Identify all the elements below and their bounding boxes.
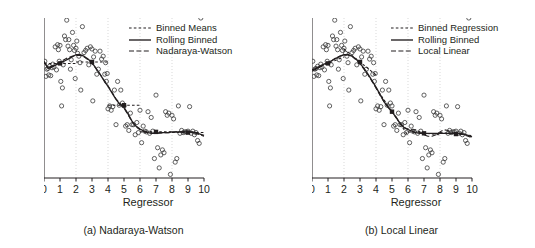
svg-text:6: 6 — [405, 183, 411, 195]
legend-label: Rolling Binned — [156, 34, 217, 46]
legend-item: Rolling Binned — [128, 34, 232, 46]
caption-b: (b) Local Linear — [268, 224, 535, 236]
svg-text:6: 6 — [137, 183, 143, 195]
svg-text:5: 5 — [389, 183, 395, 195]
legend-item: Rolling Binned — [390, 34, 498, 46]
svg-text:4: 4 — [105, 183, 111, 195]
svg-text:8: 8 — [437, 183, 443, 195]
legend-swatch-solid-icon — [390, 34, 414, 46]
svg-text:5: 5 — [121, 183, 127, 195]
legend-label: Nadaraya-Watson — [156, 45, 232, 57]
svg-text:0: 0 — [44, 183, 47, 195]
legend-item: Binned Regression — [390, 22, 498, 34]
svg-text:7: 7 — [153, 183, 159, 195]
svg-text:2: 2 — [73, 183, 79, 195]
legend-swatch-dashed-short-icon — [128, 22, 152, 34]
x-axis-label-a: Regressor — [44, 196, 252, 208]
svg-text:8: 8 — [169, 183, 175, 195]
legend-item: Local Linear — [390, 45, 498, 57]
y-axis-label-a: Dependent variable — [2, 0, 16, 28]
caption-a: (a) Nadaraya-Watson — [0, 224, 267, 236]
legend-label: Binned Regression — [418, 22, 498, 34]
x-axis-label-b: Regressor — [312, 196, 520, 208]
svg-text:9: 9 — [185, 183, 191, 195]
legend-a: Binned MeansRolling BinnedNadaraya-Watso… — [128, 22, 232, 57]
svg-text:2: 2 — [341, 183, 347, 195]
figure-root: Dependent variable -0.50.00.51.01.501234… — [0, 0, 535, 248]
legend-swatch-dashed-short-icon — [390, 22, 414, 34]
svg-text:1: 1 — [325, 183, 331, 195]
panel-local-linear: Dependent variable -0.50.00.51.01.501234… — [268, 0, 535, 248]
svg-text:10: 10 — [198, 183, 210, 195]
legend-item: Nadaraya-Watson — [128, 45, 232, 57]
svg-text:7: 7 — [421, 183, 427, 195]
svg-text:4: 4 — [373, 183, 379, 195]
legend-swatch-solid-icon — [128, 34, 152, 46]
svg-text:3: 3 — [357, 183, 363, 195]
legend-label: Binned Means — [156, 22, 217, 34]
legend-swatch-dashed-long-icon — [128, 45, 152, 57]
panel-nadaraya-watson: Dependent variable -0.50.00.51.01.501234… — [0, 0, 267, 248]
legend-label: Local Linear — [418, 45, 470, 57]
svg-text:1: 1 — [57, 183, 63, 195]
svg-text:3: 3 — [89, 183, 95, 195]
svg-text:10: 10 — [466, 183, 478, 195]
legend-label: Rolling Binned — [418, 34, 479, 46]
svg-text:0: 0 — [312, 183, 315, 195]
legend-item: Binned Means — [128, 22, 232, 34]
y-axis-label-b: Dependent variable — [270, 0, 284, 28]
legend-swatch-dashed-long-icon — [390, 45, 414, 57]
legend-b: Binned RegressionRolling BinnedLocal Lin… — [390, 22, 498, 57]
svg-text:9: 9 — [453, 183, 459, 195]
